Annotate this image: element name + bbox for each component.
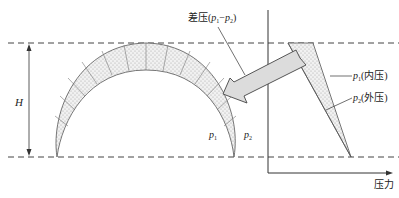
diff-prefix: 差压( [188,12,211,23]
inner-text: (内压) [361,70,388,81]
diagram-graphics [0,0,399,198]
outer-pressure-label: p2(外压) [353,93,388,104]
p2-arch-label: p2 [244,130,252,141]
outer-text: (外压) [361,92,388,103]
p2-arc-sub: 2 [249,135,252,141]
arch-pressure-diagram: H 差压(p1−p2) p1 p2 p1(内压) p2(外压) 压力 [0,0,399,198]
diff-suffix: ) [233,12,236,23]
x-axis-label: 压力 [374,180,394,190]
p1-arc-sub: 1 [214,135,217,141]
inner-pressure-label: p1(内压) [353,71,388,82]
differential-pressure-label: 差压(p1−p2) [188,13,236,24]
height-label: H [15,97,23,108]
p1-arch-label: p1 [209,130,217,141]
